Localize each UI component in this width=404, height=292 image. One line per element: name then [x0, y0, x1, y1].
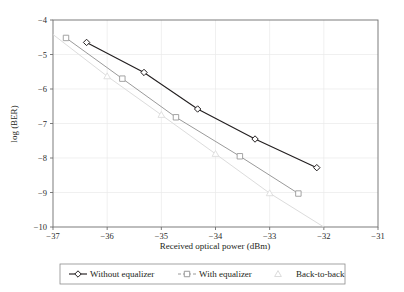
data-series — [53, 34, 324, 227]
data-point-marker — [104, 73, 111, 79]
data-point-marker — [194, 106, 200, 112]
series-without-equalizer — [83, 39, 320, 171]
chart-figure: −37−36−35−34−33−32−31 −10−9−8−7−6−5−4 Re… — [0, 0, 404, 292]
data-point-marker — [120, 76, 125, 81]
data-point-marker — [83, 39, 89, 45]
data-point-marker — [296, 191, 301, 196]
series-with-equalizer — [63, 35, 301, 196]
y-tick-label: −8 — [38, 153, 47, 163]
data-point-marker — [212, 151, 219, 157]
axis-ticks — [50, 20, 378, 230]
data-point-marker — [158, 112, 165, 118]
data-point-marker — [141, 69, 147, 75]
legend-marker-square-icon — [184, 271, 189, 276]
x-tick-label: −31 — [371, 231, 384, 241]
y-tick-label: −4 — [38, 15, 48, 25]
series-line — [66, 38, 298, 194]
data-point-marker — [314, 164, 320, 170]
ber-line-chart: −37−36−35−34−33−32−31 −10−9−8−7−6−5−4 Re… — [0, 0, 404, 292]
chart-legend: Without equalizerWith equalizerBack-to-b… — [60, 264, 345, 284]
series-line — [53, 34, 324, 227]
data-point-marker — [237, 154, 242, 159]
y-axis-title: log (BER) — [9, 105, 19, 142]
series-back-to-back — [53, 34, 324, 227]
x-tick-label: −37 — [46, 231, 59, 241]
x-tick-label: −35 — [155, 231, 168, 241]
x-tick-label: −36 — [101, 231, 114, 241]
x-tick-label: −34 — [209, 231, 223, 241]
y-tick-label: −10 — [34, 222, 47, 232]
x-tick-label: −32 — [317, 231, 330, 241]
x-axis-tick-labels: −37−36−35−34−33−32−31 — [46, 231, 384, 241]
data-point-marker — [252, 136, 258, 142]
y-tick-label: −9 — [38, 188, 47, 198]
y-tick-label: −5 — [38, 50, 47, 60]
y-axis-tick-labels: −10−9−8−7−6−5−4 — [34, 15, 48, 232]
x-axis-title: Received optical power (dBm) — [160, 241, 271, 251]
y-tick-label: −7 — [38, 119, 47, 129]
data-point-marker — [173, 115, 178, 120]
data-point-marker — [63, 35, 68, 40]
grid-lines — [53, 20, 378, 227]
series-line — [87, 42, 317, 167]
legend-label: With equalizer — [199, 269, 252, 279]
x-tick-label: −33 — [263, 231, 276, 241]
legend-label: Back-to-back — [296, 269, 345, 279]
legend-label: Without equalizer — [90, 269, 154, 279]
y-tick-label: −6 — [38, 84, 47, 94]
